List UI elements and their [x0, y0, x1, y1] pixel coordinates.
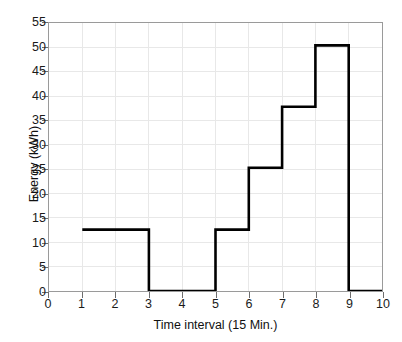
x-tick-label: 8	[302, 298, 330, 311]
chart-figure: 0510152025303540455055 012345678910 Ener…	[0, 0, 402, 342]
x-tick-label: 9	[336, 298, 364, 311]
y-tick-label: 0	[16, 286, 46, 298]
x-tick-label: 4	[168, 298, 196, 311]
x-tick-label: 2	[101, 298, 129, 311]
x-tick-label: 10	[369, 298, 397, 311]
x-tick-label: 1	[68, 298, 96, 311]
step-line-path	[82, 45, 382, 291]
y-tick-label: 55	[16, 16, 46, 28]
y-tick-label: 45	[16, 65, 46, 77]
y-tick-label: 50	[16, 41, 46, 53]
x-tick-label: 3	[135, 298, 163, 311]
x-tick-label: 0	[34, 298, 62, 311]
x-tick-label: 7	[269, 298, 297, 311]
x-tick-label: 6	[235, 298, 263, 311]
energy-step-series	[49, 23, 382, 291]
x-tick-label: 5	[202, 298, 230, 311]
y-tick-label: 5	[16, 261, 46, 273]
y-axis-title: Energy (kWh)	[27, 84, 41, 244]
plot-area	[48, 22, 383, 292]
x-axis-title: Time interval (15 Min.)	[48, 318, 383, 332]
